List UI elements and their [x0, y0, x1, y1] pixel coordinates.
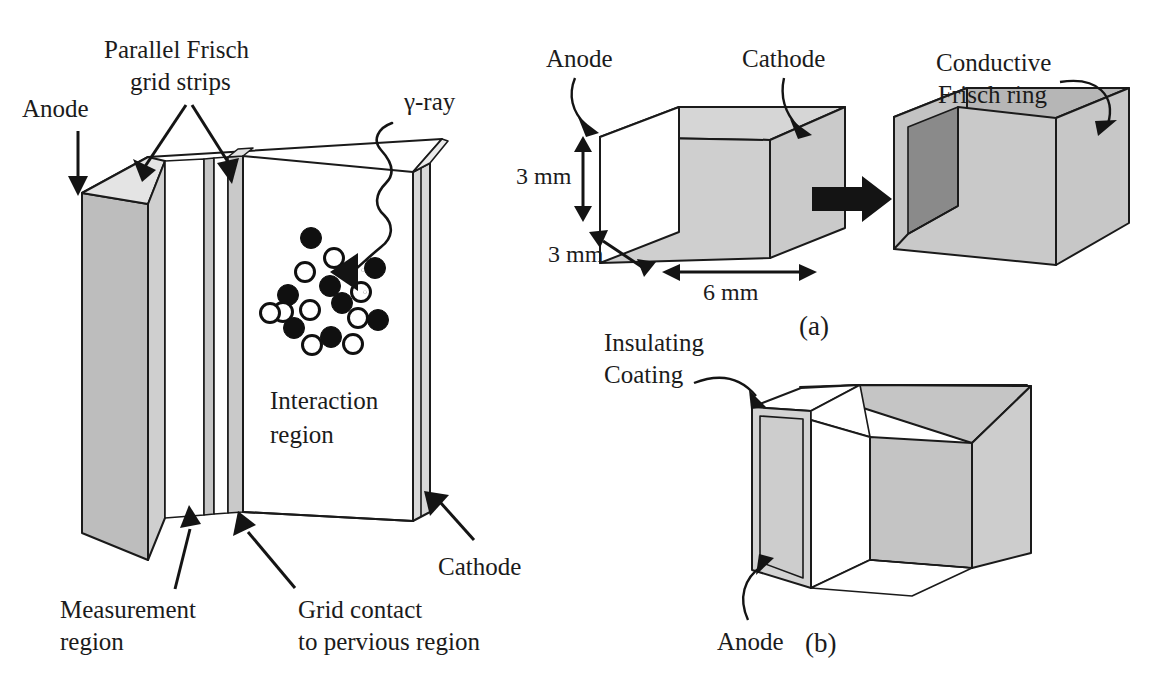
- main-detector-block: [82, 139, 448, 560]
- panel-a-height-dimension-label: 3 mm: [516, 163, 572, 189]
- interaction-region-label-line1: Interaction: [270, 387, 379, 414]
- charge-dot-open: [325, 249, 344, 268]
- measurement-region-label-line2: region: [60, 628, 124, 655]
- pervious-gap-face: [214, 157, 228, 514]
- panel-b-sleeve-front-face: [811, 420, 870, 588]
- panel-a-caption: (a): [799, 311, 829, 341]
- charge-dot-open: [261, 304, 280, 323]
- panel-b-insulating-label-line1: Insulating: [604, 329, 704, 356]
- interaction-region-label-line2: region: [270, 421, 334, 448]
- panel-a-anode-label: Anode: [546, 45, 613, 72]
- grid-contact-label-line1: Grid contact: [298, 596, 422, 623]
- panel-a-depth-dimension-label: 3 mm: [548, 241, 604, 267]
- measurement-region-face: [165, 159, 204, 518]
- panel-b-anode-label: Anode: [717, 628, 784, 655]
- charge-dot-filled: [368, 310, 389, 331]
- gamma-ray-label: γ-ray: [403, 88, 456, 115]
- grid-strips-label-line1: Parallel Frisch: [104, 36, 250, 63]
- measurement-region-label-line1: Measurement: [60, 596, 196, 623]
- panel-b-body-front-face: [870, 437, 972, 568]
- figure-svg: Anode Parallel Frisch grid strips γ-ray …: [0, 0, 1170, 694]
- main-anode-label: Anode: [22, 95, 89, 122]
- panel-b-caption: (b): [805, 628, 836, 658]
- panel-a-solid-bar: [600, 107, 845, 263]
- charge-dot-filled: [301, 228, 322, 249]
- panel-b-detector: [752, 385, 1031, 596]
- panel-b-insulating-label-line2: Coating: [604, 361, 684, 388]
- charge-dot-filled: [321, 327, 342, 348]
- charge-dot-open: [344, 335, 363, 354]
- panel-a-cathode-label: Cathode: [742, 45, 825, 72]
- charge-dot-filled: [365, 258, 386, 279]
- charge-dot-open: [303, 336, 322, 355]
- main-cathode-label: Cathode: [438, 553, 521, 580]
- charge-dot-open: [301, 301, 320, 320]
- charge-dot-filled: [284, 318, 305, 339]
- panel-b-anode-plate-inner: [760, 416, 803, 578]
- grid-strips-label-line2: grid strips: [130, 68, 231, 95]
- panel-a-ring-label-line2: Frisch ring: [938, 81, 1048, 108]
- figure-root: Anode Parallel Frisch grid strips γ-ray …: [0, 0, 1170, 694]
- charge-dot-open: [296, 263, 315, 282]
- charge-dot-open: [349, 309, 368, 328]
- grid-contact-label-line2: to pervious region: [298, 628, 480, 655]
- grid-strip-left: [204, 158, 214, 515]
- anode-slab-front-face: [82, 193, 148, 560]
- panel-a-ring-label-line1: Conductive: [936, 49, 1051, 76]
- charge-dot-filled: [332, 293, 353, 314]
- anode-slab-right-face: [148, 161, 165, 560]
- panel-a-frisch-ring: [894, 88, 1129, 265]
- grid-contact-strip: [228, 156, 243, 513]
- panel-a-width-dimension-label: 6 mm: [703, 279, 759, 305]
